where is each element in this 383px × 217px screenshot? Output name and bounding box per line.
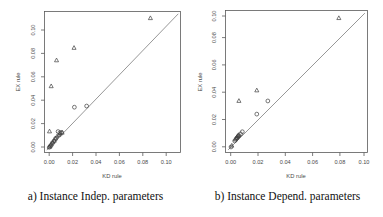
data-point-circle bbox=[85, 104, 89, 108]
svg-text:0.08: 0.08 bbox=[334, 159, 345, 165]
caption-a: a) Instance Indep. parameters bbox=[0, 190, 191, 203]
svg-text:0.04: 0.04 bbox=[91, 159, 102, 165]
data-point-triangle bbox=[255, 88, 259, 92]
data-points-a bbox=[47, 16, 152, 149]
data-point-circle bbox=[266, 99, 270, 103]
svg-text:0.08: 0.08 bbox=[137, 159, 148, 165]
y-axis-ticks-a bbox=[41, 30, 45, 147]
svg-text:0.06: 0.06 bbox=[114, 159, 125, 165]
data-point-triangle bbox=[55, 58, 59, 62]
x-tick-labels-b: 0.00 0.02 0.04 0.06 0.08 0.10 bbox=[225, 159, 369, 165]
svg-text:0.02: 0.02 bbox=[253, 159, 264, 165]
svg-text:0.00: 0.00 bbox=[211, 141, 217, 152]
reference-line-b bbox=[228, 13, 365, 150]
svg-text:0.10: 0.10 bbox=[30, 25, 36, 36]
svg-text:0.02: 0.02 bbox=[30, 118, 36, 129]
scatter-plot-b: 0.00 0.02 0.04 0.06 0.08 0.10 0.00 0.02 … bbox=[192, 0, 383, 190]
x-tick-labels-a: 0.00 0.02 0.04 0.06 0.08 0.10 bbox=[44, 159, 172, 165]
svg-text:0.02: 0.02 bbox=[211, 114, 217, 125]
data-point-triangle bbox=[72, 46, 76, 50]
svg-text:0.04: 0.04 bbox=[280, 159, 291, 165]
data-point-circle bbox=[72, 105, 76, 109]
data-point-triangle bbox=[49, 84, 53, 88]
data-point-circle bbox=[255, 112, 259, 116]
y-axis-title-a: EX rule bbox=[15, 72, 21, 91]
x-axis-title-b: KD rule bbox=[286, 173, 305, 179]
svg-text:0.06: 0.06 bbox=[211, 59, 217, 70]
data-points-b bbox=[229, 16, 341, 149]
svg-text:0.06: 0.06 bbox=[307, 159, 318, 165]
svg-text:0.06: 0.06 bbox=[30, 71, 36, 82]
data-point-triangle bbox=[148, 16, 152, 20]
svg-text:0.10: 0.10 bbox=[211, 11, 217, 22]
svg-text:0.08: 0.08 bbox=[30, 48, 36, 59]
figure-two-panel-scatter: 0.00 0.02 0.04 0.06 0.08 0.10 0.00 0.02 … bbox=[0, 0, 383, 217]
svg-text:0.04: 0.04 bbox=[211, 87, 217, 98]
x-axis-title-a: KD rule bbox=[102, 173, 121, 179]
data-point-triangle bbox=[47, 129, 51, 133]
svg-text:0.02: 0.02 bbox=[67, 159, 78, 165]
y-axis-title-b: EX rule bbox=[197, 72, 203, 91]
y-tick-labels-a: 0.00 0.02 0.04 0.06 0.08 0.10 bbox=[30, 25, 36, 153]
svg-text:0.00: 0.00 bbox=[44, 159, 55, 165]
panel-b: 0.00 0.02 0.04 0.06 0.08 0.10 0.00 0.02 … bbox=[192, 0, 383, 217]
data-point-triangle bbox=[237, 99, 241, 103]
y-axis-ticks-b bbox=[222, 16, 226, 147]
data-point-triangle bbox=[337, 16, 341, 20]
svg-text:0.00: 0.00 bbox=[225, 159, 236, 165]
svg-text:0.04: 0.04 bbox=[30, 95, 36, 106]
caption-b: b) Instance Depend. parameters bbox=[192, 190, 383, 203]
svg-text:0.08: 0.08 bbox=[211, 32, 217, 43]
diagonal-reference-line bbox=[228, 13, 365, 150]
x-axis-ticks-a bbox=[49, 153, 166, 157]
svg-text:0.10: 0.10 bbox=[359, 159, 370, 165]
svg-text:0.10: 0.10 bbox=[161, 159, 172, 165]
panel-a: 0.00 0.02 0.04 0.06 0.08 0.10 0.00 0.02 … bbox=[0, 0, 191, 217]
y-tick-labels-b: 0.00 0.02 0.04 0.06 0.08 0.10 bbox=[211, 11, 217, 153]
diagonal-reference-line bbox=[47, 14, 179, 150]
svg-text:0.00: 0.00 bbox=[30, 142, 36, 153]
x-axis-ticks-b bbox=[231, 153, 364, 157]
scatter-plot-a: 0.00 0.02 0.04 0.06 0.08 0.10 0.00 0.02 … bbox=[0, 0, 191, 190]
reference-line-a bbox=[47, 14, 179, 150]
